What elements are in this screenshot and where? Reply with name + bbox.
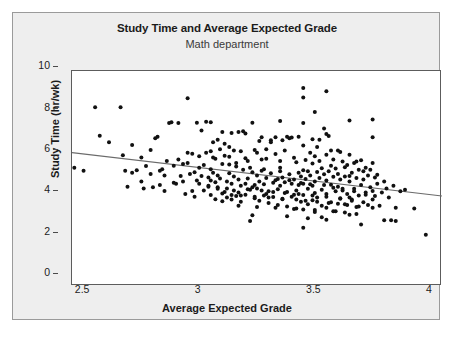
scatter-point [257,180,261,184]
scatter-point [218,147,222,151]
y-tick-label: 10 [24,59,50,71]
scatter-point [320,204,324,208]
scatter-point [294,188,298,192]
scatter-point [403,188,407,192]
scatter-point [218,177,222,181]
scatter-point [271,190,275,194]
scatter-point [317,138,321,142]
scatter-point [204,120,208,124]
scatter-point [285,214,289,218]
scatter-point [220,199,224,203]
scatter-point [278,184,282,188]
scatter-point [371,189,375,193]
scatter-point [306,187,310,191]
scatter-point [216,138,220,142]
scatter-point [174,182,178,186]
scatter-point [200,129,204,133]
scatter-point [225,196,229,200]
scatter-point [424,233,428,237]
scatter-point [348,213,352,217]
figure-canvas: Study Time and Average Expected Grade Ma… [0,0,465,339]
scatter-point [264,157,268,161]
scatter-point [209,167,213,171]
scatter-point [354,212,358,216]
scatter-point [285,204,289,208]
scatter-point [163,173,167,177]
scatter-point [306,169,310,173]
scatter-point [255,173,259,177]
scatter-point [225,186,229,190]
scatter-point [341,160,345,164]
scatter-point [290,182,294,186]
scatter-point [276,177,280,181]
scatter-point [345,203,349,207]
scatter-point [297,171,301,175]
scatter-point [301,86,305,90]
scatter-point [366,203,370,207]
scatter-point [322,183,326,187]
scatter-point [257,139,261,143]
chart-panel: Study Time and Average Expected Grade Ma… [12,12,440,320]
scatter-point [313,180,317,184]
scatter-point [280,138,284,142]
scatter-point [269,171,273,175]
scatter-point [250,121,254,125]
scatter-point [202,188,206,192]
scatter-point [334,167,338,171]
scatter-point [232,174,236,178]
scatter-point [338,178,342,182]
scatter-point [227,171,231,175]
scatter-point [230,131,234,135]
scatter-point [329,149,333,153]
scatter-point [239,184,243,188]
scatter-points-layer [72,71,442,286]
scatter-point [158,183,162,187]
scatter-point [250,213,254,217]
scatter-point [313,154,317,158]
scatter-point [324,195,328,199]
scatter-point [278,119,282,123]
scatter-point [292,156,296,160]
scatter-point [322,172,326,176]
scatter-point [223,142,227,146]
scatter-point [354,160,358,164]
scatter-point [250,170,254,174]
scatter-point [193,170,197,174]
scatter-point [306,202,310,206]
scatter-point [327,169,331,173]
scatter-point [389,218,393,222]
y-tick-mark [53,149,58,150]
scatter-point [357,168,361,172]
scatter-point [271,195,275,199]
scatter-point [283,191,287,195]
scatter-point [243,156,247,160]
scatter-point [361,178,365,182]
scatter-point [169,120,173,124]
y-tick-label: 6 [24,142,50,154]
scatter-point [130,143,134,147]
scatter-point [285,135,289,139]
scatter-point [311,198,315,202]
scatter-point [301,143,305,147]
scatter-point [139,180,143,184]
scatter-point [357,193,361,197]
scatter-point [331,157,335,161]
scatter-point [130,171,134,175]
scatter-point [301,95,305,99]
scatter-point [232,188,236,192]
scatter-point [142,186,146,190]
scatter-point [364,166,368,170]
scatter-point [398,189,402,193]
scatter-point [216,185,220,189]
scatter-point [243,193,247,197]
scatter-point [385,186,389,190]
scatter-point [287,178,291,182]
scatter-point [186,96,190,100]
scatter-point [322,126,326,130]
y-tick-label: 8 [24,101,50,113]
scatter-point [371,118,375,122]
scatter-point [262,167,266,171]
scatter-point [292,193,296,197]
scatter-point [269,140,273,144]
scatter-point [343,174,347,178]
